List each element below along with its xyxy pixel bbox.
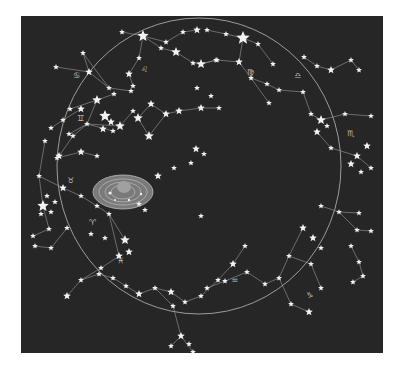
star-icon (300, 89, 306, 94)
star-icon (37, 200, 48, 211)
star-icon (99, 110, 110, 121)
star-icon (77, 148, 85, 155)
star-icon (130, 83, 136, 88)
star-icon (204, 285, 210, 290)
zodiac-sign-icon: ♓ (117, 256, 124, 265)
star-icon (188, 160, 194, 165)
star-icon (106, 211, 112, 216)
star-icon (201, 151, 207, 156)
star-icon (94, 153, 100, 158)
star-icon (48, 125, 54, 130)
star-icon (286, 253, 292, 258)
star-icon (309, 234, 317, 241)
star-icon (327, 66, 335, 73)
star-icon (368, 165, 374, 170)
star-icon (299, 224, 307, 231)
star-icon (44, 193, 50, 198)
zodiac-sign-icon: ♎ (294, 71, 301, 80)
star-icon (276, 87, 282, 92)
star-icon (135, 290, 143, 297)
star-icon (130, 108, 136, 113)
star-icon (229, 260, 237, 267)
star-icon (368, 113, 374, 118)
star-icon (198, 213, 204, 218)
zodiac-sign-icon: ♊ (77, 114, 84, 123)
zodiac-sign-icon: ♌ (141, 65, 148, 74)
solar-system-illustration (93, 175, 153, 209)
star-icon (193, 26, 201, 33)
star-icon (92, 95, 102, 104)
star-icon (270, 61, 276, 66)
star-icon (52, 199, 58, 204)
zodiac-star-map: ♋♌♊♍♎♏♉♈♓♒♑ (21, 16, 383, 353)
star-chart: ♋♌♊♍♎♏♉♈♓♒♑ (21, 16, 383, 353)
zodiac-sign-icon: ♋ (73, 71, 80, 80)
star-icon (216, 105, 222, 110)
star-icon (163, 39, 169, 44)
zodiac-sign-icon: ♒ (231, 276, 238, 285)
star-icon (120, 235, 130, 244)
star-icon (305, 308, 313, 315)
star-icon (318, 285, 324, 290)
star-icon (308, 261, 314, 266)
star-icon (360, 273, 366, 278)
star-icon (350, 279, 356, 284)
star-icon (356, 259, 362, 264)
star-icon (177, 332, 185, 339)
star-icon (106, 85, 112, 90)
star-icon (266, 100, 272, 105)
star-icon (348, 57, 354, 62)
star-icon (222, 278, 228, 283)
star-icon (136, 55, 142, 60)
star-icon (196, 59, 206, 68)
star-icon (236, 31, 249, 44)
star-icon (276, 275, 282, 280)
star-icon (67, 106, 73, 111)
star-icon (308, 111, 314, 116)
star-icon (314, 63, 320, 68)
star-icon (348, 243, 354, 248)
star-icon (192, 145, 200, 152)
zodiac-sign-icon: ♈ (89, 218, 96, 227)
star-icon (171, 47, 181, 56)
star-icon (318, 203, 324, 208)
star-icon (262, 281, 268, 286)
zodiac-sign-icon: ♏ (347, 129, 355, 138)
star-icon (264, 81, 270, 86)
star-icon (316, 115, 326, 124)
star-icon (80, 50, 86, 55)
star-icon (356, 210, 362, 215)
star-icon (313, 128, 321, 135)
star-icon (242, 243, 248, 248)
star-icon (59, 184, 67, 191)
star-icon (48, 209, 54, 214)
star-icon (125, 70, 133, 77)
star-icon (119, 29, 125, 34)
star-icon (324, 123, 330, 128)
star-icon (110, 128, 116, 133)
star-icon (96, 271, 102, 276)
star-icon (194, 85, 200, 90)
star-icon (182, 299, 188, 304)
zodiac-sign-icon: ♍ (247, 68, 254, 77)
star-icon (128, 88, 134, 93)
star-icon (30, 233, 36, 238)
star-icon (111, 91, 117, 96)
star-icon (336, 209, 342, 214)
star-icon (88, 231, 94, 236)
star-icon (175, 107, 183, 114)
star-icon (255, 41, 261, 46)
constellation-lines (33, 30, 371, 352)
star-icon (158, 45, 164, 50)
star-icon (208, 93, 214, 98)
zodiac-sign-icon: ♉ (67, 176, 74, 185)
star-icon (98, 265, 104, 270)
star-icon (154, 172, 162, 179)
star-icon (171, 165, 177, 170)
stars (30, 26, 374, 353)
star-icon (162, 110, 170, 117)
star-icon (197, 104, 205, 111)
star-icon (204, 27, 210, 32)
star-icon (46, 226, 52, 231)
star-icon (107, 118, 115, 125)
